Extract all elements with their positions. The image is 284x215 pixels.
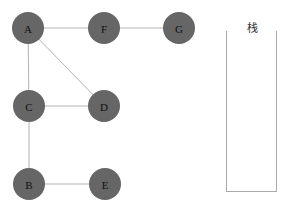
node-d-label: D [100, 101, 108, 113]
node-b: B [13, 168, 45, 200]
node-b-label: B [25, 179, 32, 191]
node-e-label: E [102, 179, 109, 191]
node-a: A [12, 12, 44, 44]
node-c-label: C [25, 101, 32, 113]
node-e: E [89, 168, 121, 200]
node-f-label: F [101, 23, 107, 35]
stack-container [226, 31, 277, 192]
node-d: D [88, 90, 120, 122]
node-c: C [13, 90, 45, 122]
node-g-label: G [175, 23, 183, 35]
node-f: F [88, 12, 120, 44]
node-g: G [163, 12, 195, 44]
node-a-label: A [24, 23, 32, 35]
